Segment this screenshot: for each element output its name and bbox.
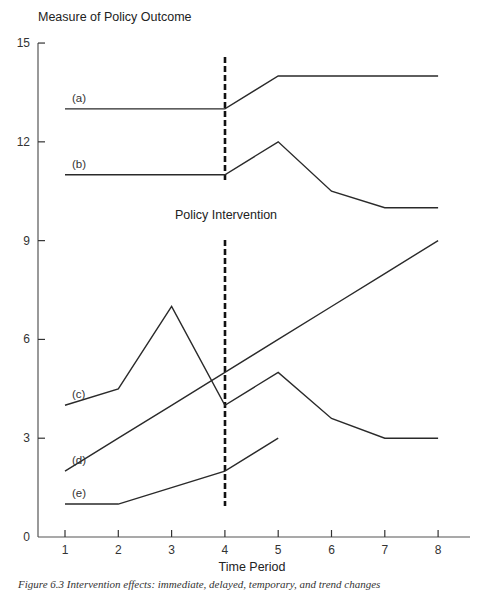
series-label-e: (e) <box>72 487 86 499</box>
x-tick-label: 4 <box>222 543 229 557</box>
x-tick-label: 2 <box>115 543 122 557</box>
series-line-e <box>65 438 278 504</box>
x-tick-label: 6 <box>328 543 335 557</box>
x-axis-title: Time Period <box>219 560 286 574</box>
x-tick-label: 8 <box>435 543 442 557</box>
y-tick-label: 0 <box>23 530 30 544</box>
y-tick-label: 12 <box>17 135 31 149</box>
intervention-label: Policy Intervention <box>175 208 277 222</box>
series-line-a <box>65 76 438 109</box>
y-tick-label: 15 <box>17 36 31 50</box>
y-tick-label: 3 <box>23 431 30 445</box>
series-group: (a)(b)(c)(d)(e) <box>65 76 438 504</box>
series-label-c: (c) <box>72 388 86 400</box>
x-tick-label: 1 <box>62 543 69 557</box>
y-axis: 03691215 <box>17 36 45 544</box>
y-tick-label: 6 <box>23 332 30 346</box>
series-label-d: (d) <box>72 454 86 466</box>
series-line-c <box>65 306 438 438</box>
line-chart: Measure of Policy Outcome 03691215 12345… <box>0 0 485 590</box>
intervention-marker: Policy Intervention <box>175 57 277 506</box>
x-tick-label: 7 <box>381 543 388 557</box>
x-tick-label: 5 <box>275 543 282 557</box>
y-axis-title: Measure of Policy Outcome <box>38 10 192 24</box>
series-label-a: (a) <box>72 92 86 104</box>
x-axis: 12345678 <box>38 530 470 557</box>
y-tick-label: 9 <box>23 234 30 248</box>
figure-caption: Figure 6.3 Intervention effects: immedia… <box>18 578 380 590</box>
series-line-b <box>65 142 438 208</box>
series-label-b: (b) <box>72 158 86 170</box>
x-tick-label: 3 <box>168 543 175 557</box>
